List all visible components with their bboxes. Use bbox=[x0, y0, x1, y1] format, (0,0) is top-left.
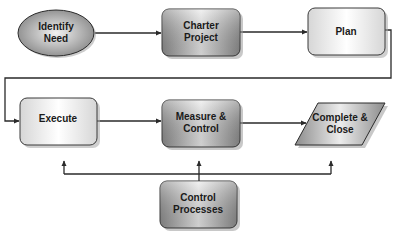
node-charter-project: Charter Project bbox=[162, 9, 243, 59]
node-label-line: Close bbox=[326, 124, 354, 135]
node-label-line: Plan bbox=[335, 26, 356, 37]
project-lifecycle-diagram: Identify Need Charter Project Plan Execu… bbox=[0, 0, 395, 234]
node-identify-need: Identify Need bbox=[18, 10, 96, 58]
node-label-line: Identify bbox=[38, 21, 74, 32]
node-label-line: Processes bbox=[173, 204, 223, 215]
node-label-line: Project bbox=[184, 32, 219, 43]
node-label-line: Control bbox=[180, 192, 216, 203]
node-control-processes: Control Processes bbox=[160, 181, 240, 231]
node-label-line: Charter bbox=[183, 20, 219, 31]
node-label-line: Complete & bbox=[312, 112, 368, 123]
node-plan: Plan bbox=[308, 8, 388, 58]
node-label-line: Measure & bbox=[176, 111, 227, 122]
node-label-line: Need bbox=[44, 33, 68, 44]
node-complete-close: Complete & Close bbox=[295, 103, 388, 148]
node-label-line: Execute bbox=[39, 113, 78, 124]
node-measure-control: Measure & Control bbox=[162, 100, 243, 150]
node-execute: Execute bbox=[20, 98, 100, 148]
node-label-line: Control bbox=[183, 123, 219, 134]
